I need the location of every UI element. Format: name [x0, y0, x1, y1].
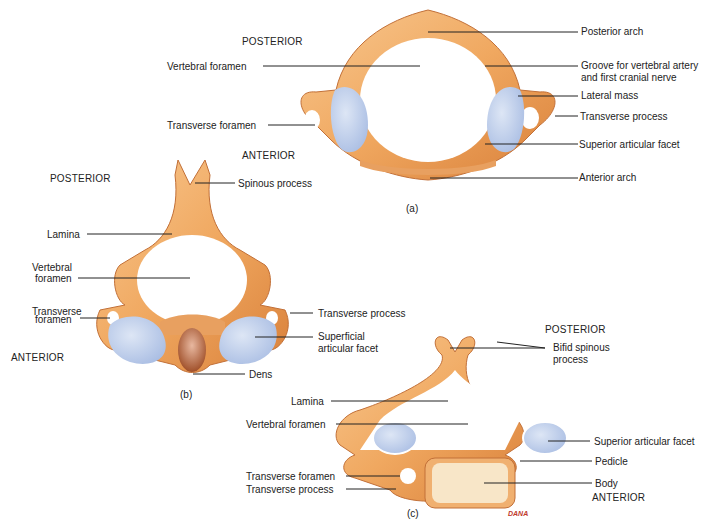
label-a-groove: Groove for vertebral artery [581, 60, 698, 71]
label-a-transverse-foramen: Transverse foramen [167, 120, 256, 131]
axis-vertebra [97, 160, 289, 373]
vertebrae-diagram: POSTERIOR ANTERIOR Vertebral foramen Tra… [0, 0, 715, 527]
label-c-bifid-1: Bifid spinous [553, 342, 610, 353]
artist-signature: DANA [508, 510, 528, 517]
label-a-lateral-mass: Lateral mass [581, 90, 638, 101]
fig-a-anterior: ANTERIOR [242, 150, 295, 161]
label-a-superior-facet: Superior articular facet [579, 139, 680, 150]
label-a-anterior-arch: Anterior arch [579, 172, 636, 183]
fig-a-posterior: POSTERIOR [242, 36, 303, 47]
label-c-transverse-process: Transverse process [246, 484, 333, 495]
label-b-dens: Dens [249, 369, 272, 380]
caption-a: (a) [406, 203, 418, 214]
label-b-transverse-process: Transverse process [318, 308, 405, 319]
label-c-lamina: Lamina [291, 396, 324, 407]
fig-b-posterior: POSTERIOR [50, 173, 111, 184]
label-c-vertebral-foramen: Vertebral foramen [246, 419, 326, 430]
atlas-vertebra [301, 10, 555, 180]
label-c-transverse-foramen: Transverse foramen [246, 471, 335, 482]
label-b-superficial-facet-1: Superficial [318, 331, 365, 342]
label-c-body: Body [595, 478, 618, 489]
label-b-vertebral-foramen-2: foramen [35, 273, 72, 284]
label-b-vertebral-foramen-1: Vertebral [32, 262, 72, 273]
caption-b: (b) [180, 389, 192, 400]
fig-c-anterior: ANTERIOR [592, 492, 645, 503]
label-b-transverse-foramen-2: foramen [35, 314, 72, 325]
label-a-groove-line2: and first cranial nerve [581, 72, 677, 83]
label-b-superficial-facet-2: articular facet [318, 343, 378, 354]
label-c-bifid-2: process [553, 354, 588, 365]
fig-b-anterior: ANTERIOR [11, 352, 64, 363]
label-c-pedicle: Pedicle [595, 456, 628, 467]
label-a-posterior-arch: Posterior arch [581, 26, 643, 37]
caption-c: (c) [407, 508, 419, 519]
label-b-lamina: Lamina [47, 229, 80, 240]
label-c-superior-facet: Superior articular facet [594, 436, 695, 447]
label-a-transverse-process: Transverse process [580, 111, 667, 122]
label-a-vertebral-foramen: Vertebral foramen [167, 61, 247, 72]
label-b-spinous-process: Spinous process [238, 178, 312, 189]
fig-c-posterior: POSTERIOR [545, 324, 606, 335]
cervical-vertebra [336, 337, 567, 508]
